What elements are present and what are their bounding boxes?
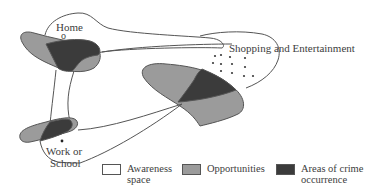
legend-swatch-opportunities — [182, 164, 201, 175]
legend-swatch-crime — [276, 164, 295, 175]
legend-awareness-line1: Awareness — [127, 163, 172, 174]
shopping-label: Shopping and Entertainment — [229, 42, 355, 54]
legend-label-awareness: Awareness space — [127, 163, 172, 185]
work-label-line1: Work or — [46, 145, 82, 157]
legend-crime-line1: Areas of crime — [301, 163, 363, 174]
legend-swatch-awareness — [102, 164, 121, 175]
shopping-dots — [212, 54, 254, 77]
legend-crime-line2: occurrence — [301, 174, 363, 185]
home-marker: o — [61, 30, 66, 42]
awareness-path-work-shopping-lower — [80, 104, 182, 163]
awareness-path-home-work-left — [50, 70, 56, 124]
legend-label-crime: Areas of crime occurrence — [301, 163, 363, 185]
awareness-path-work-shopping-upper — [78, 104, 182, 130]
legend-awareness-line2: space — [127, 174, 172, 185]
legend-opportunities-line1: Opportunities — [207, 163, 265, 174]
work-location-dot — [61, 140, 64, 143]
work-label-line2: School — [50, 157, 81, 169]
legend-label-opportunities: Opportunities — [207, 163, 265, 174]
awareness-path-home-work-right — [68, 71, 74, 122]
